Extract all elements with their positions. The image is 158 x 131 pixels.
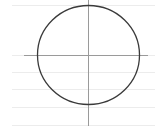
ruled-lines (12, 6, 155, 126)
diagram-canvas (0, 0, 158, 131)
circle-diagram (0, 0, 158, 131)
